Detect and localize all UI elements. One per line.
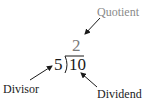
dividend-arrow-icon	[81, 73, 97, 87]
divisor-arrow-icon	[30, 66, 52, 80]
diagram-lines	[0, 0, 149, 102]
division-bracket	[65, 56, 84, 73]
quotient-arrow-icon	[85, 18, 100, 34]
